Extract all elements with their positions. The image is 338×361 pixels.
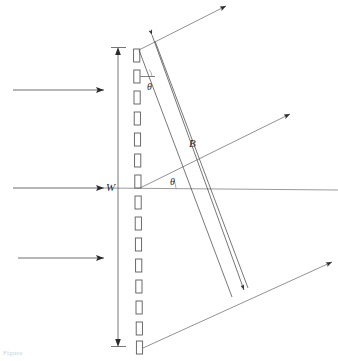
grating-slit bbox=[136, 341, 142, 354]
grating-slit bbox=[136, 322, 142, 335]
diffracted-beam-edges bbox=[139, 41, 248, 297]
w-dimension-arrow-top bbox=[115, 47, 121, 55]
beam-width-label: B bbox=[189, 138, 196, 149]
grating-slits bbox=[134, 49, 143, 354]
grating-slit bbox=[136, 259, 142, 272]
figure-container: W B θ θ Figure bbox=[0, 0, 338, 361]
grating-slit bbox=[135, 175, 141, 188]
b-dimension-shaft bbox=[152, 35, 244, 290]
grating-slit bbox=[134, 49, 140, 62]
grating-slit bbox=[134, 91, 140, 104]
width-label: W bbox=[106, 182, 115, 193]
w-dimension-arrow-bottom bbox=[115, 339, 121, 347]
b-dimension-line bbox=[152, 35, 244, 290]
figure-caption: Figure bbox=[3, 349, 22, 357]
theta-top-arc bbox=[149, 70, 152, 77]
theta-top-label: θ bbox=[147, 82, 152, 92]
outgoing-ray-bottom bbox=[143, 262, 332, 348]
incoming-rays bbox=[13, 90, 104, 258]
outgoing-ray-top bbox=[139, 6, 226, 50]
grating-slit bbox=[135, 154, 141, 167]
beam-edge-right bbox=[155, 41, 248, 288]
w-dimension-line bbox=[111, 47, 126, 347]
grating-slit bbox=[134, 112, 140, 125]
outgoing-ray-center bbox=[140, 114, 290, 188]
outgoing-rays bbox=[139, 6, 332, 348]
theta-center-label: θ bbox=[170, 177, 175, 187]
grating-slit bbox=[135, 217, 141, 230]
grating-slit bbox=[135, 196, 141, 209]
grating-slit bbox=[134, 133, 140, 146]
grating-slit bbox=[134, 70, 140, 83]
grating-slit bbox=[135, 238, 141, 251]
optics-diagram-canvas bbox=[0, 0, 338, 361]
beam-edge-left bbox=[139, 50, 232, 297]
grating-slit bbox=[136, 280, 142, 293]
grating-slit bbox=[136, 301, 142, 314]
